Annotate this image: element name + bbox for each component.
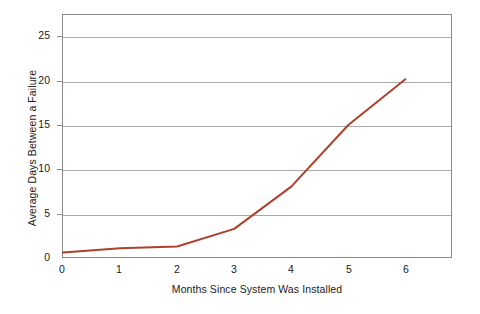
- x-tick-label-3: 3: [219, 263, 249, 275]
- series-line-average-days-between-failure: [63, 79, 405, 252]
- y-tick-mark-5: [57, 214, 62, 215]
- y-tick-mark-25: [57, 36, 62, 37]
- line-chart-figure: Average Days Between a Failure 510152025…: [0, 0, 480, 314]
- y-tick-mark-20: [57, 81, 62, 82]
- x-tick-label-1: 1: [104, 263, 134, 275]
- x-tick-label-2: 2: [162, 263, 192, 275]
- y-axis-title: Average Days Between a Failure: [22, 13, 42, 283]
- y-tick-label-15: 15: [2, 118, 50, 130]
- y-tick-label-25: 25: [2, 29, 50, 41]
- x-axis-title: Months Since System Was Installed: [62, 283, 452, 295]
- x-tick-label-6: 6: [391, 263, 421, 275]
- y-tick-label-10: 10: [2, 162, 50, 174]
- y-tick-label-5: 5: [2, 207, 50, 219]
- x-tick-label-4: 4: [276, 263, 306, 275]
- plot-area: [62, 14, 452, 258]
- x-tick-label-0: 0: [47, 263, 77, 275]
- y-tick-label-20: 20: [2, 74, 50, 86]
- y-tick-mark-15: [57, 125, 62, 126]
- data-series-svg: [63, 15, 451, 257]
- x-tick-label-5: 5: [334, 263, 364, 275]
- y-tick-mark-10: [57, 169, 62, 170]
- y-tick-label-0: 0: [2, 251, 50, 263]
